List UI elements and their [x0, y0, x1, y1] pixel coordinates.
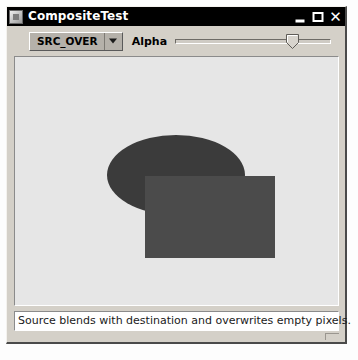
window-title: CompositeTest [28, 7, 290, 26]
alpha-slider[interactable] [175, 31, 331, 51]
minimize-button[interactable] [291, 9, 308, 24]
canvas-surface [15, 57, 338, 305]
rectangle-shape [145, 176, 275, 258]
close-icon: ✕ [329, 10, 342, 23]
chevron-down-icon[interactable] [104, 33, 122, 50]
resize-grip[interactable] [14, 332, 339, 340]
status-message: Source blends with destination and overw… [15, 312, 351, 330]
close-button[interactable]: ✕ [327, 9, 344, 24]
composite-canvas[interactable] [14, 56, 339, 306]
maximize-icon [312, 12, 323, 22]
status-bar: Source blends with destination and overw… [14, 311, 339, 331]
application-window: CompositeTest ✕ SRC_OVER Alpha [6, 6, 347, 344]
page-background: CompositeTest ✕ SRC_OVER Alpha [0, 0, 358, 360]
maximize-button[interactable] [309, 9, 326, 24]
alpha-slider-track[interactable] [175, 39, 331, 44]
toolbar: SRC_OVER Alpha [7, 26, 345, 56]
minimize-icon [295, 19, 304, 22]
title-bar[interactable]: CompositeTest ✕ [7, 7, 345, 26]
composite-mode-select[interactable]: SRC_OVER [29, 32, 123, 51]
composite-mode-value: SRC_OVER [30, 33, 104, 50]
alpha-slider-thumb[interactable] [286, 34, 299, 49]
java-app-icon [9, 10, 23, 24]
alpha-label: Alpha [132, 35, 167, 48]
